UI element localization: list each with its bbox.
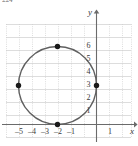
x-tick-label--4: –4 bbox=[25, 128, 39, 136]
y-tick-label-1: 1 bbox=[84, 107, 93, 115]
grid-horizontal-lines bbox=[6, 25, 131, 138]
y-tick-label-2: 2 bbox=[84, 94, 93, 102]
circle-graph-plot bbox=[0, 0, 138, 146]
y-axis-label: y bbox=[88, 8, 92, 17]
x-tick-label--1: –1 bbox=[64, 128, 78, 136]
x-tick-label--2: –2 bbox=[51, 128, 65, 136]
y-tick-label-3: 3 bbox=[84, 81, 93, 89]
y-axis bbox=[94, 10, 100, 142]
x-tick-label--5: –5 bbox=[12, 128, 26, 136]
grid-vertical-lines bbox=[7, 24, 132, 137]
y-tick-label-6: 6 bbox=[84, 42, 93, 50]
point-right bbox=[94, 83, 99, 88]
x-axis-label: x bbox=[130, 127, 134, 136]
y-tick-label-5: 5 bbox=[84, 55, 93, 63]
x-tick-label--3: –3 bbox=[38, 128, 52, 136]
x-tick-label-1: 1 bbox=[103, 128, 117, 136]
point-top bbox=[55, 44, 60, 49]
point-left bbox=[16, 83, 21, 88]
y-tick-label-4: 4 bbox=[84, 68, 93, 76]
figure-container: 224 bbox=[0, 0, 138, 146]
